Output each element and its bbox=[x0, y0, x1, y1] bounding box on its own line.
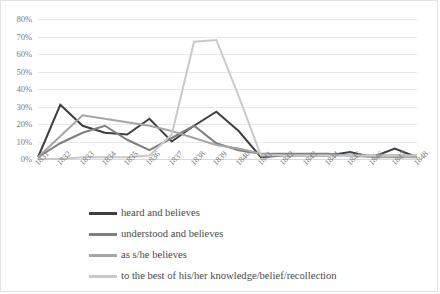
y-axis-tick-20: 20% bbox=[17, 119, 32, 129]
series-lines bbox=[38, 19, 417, 159]
y-axis-tick-60: 60% bbox=[17, 49, 32, 59]
y-axis-tick-70: 70% bbox=[17, 32, 32, 42]
y-axis-tick-50: 50% bbox=[17, 67, 32, 77]
legend-label-1: understood and believes bbox=[121, 229, 223, 240]
plot-area bbox=[38, 19, 417, 159]
chart-figure: 80%70%60%50%40%30%20%10%0% 1831183218331… bbox=[0, 0, 438, 292]
legend-swatch-2 bbox=[89, 254, 117, 257]
legend-swatch-3 bbox=[89, 275, 117, 278]
y-axis-tick-80: 80% bbox=[17, 14, 32, 24]
y-axis-tick-30: 30% bbox=[17, 102, 32, 112]
legend-item-3[interactable]: to the best of his/her knowledge/belief/… bbox=[1, 266, 439, 287]
legend-swatch-0 bbox=[89, 212, 117, 215]
legend-item-0[interactable]: heard and believes bbox=[1, 203, 439, 224]
y-axis-tick-40: 40% bbox=[17, 84, 32, 94]
series-line-3 bbox=[38, 40, 417, 159]
x-axis-tick-labels: 1831183218331834183518361837183818391840… bbox=[38, 161, 417, 195]
y-axis-tick-labels: 80%70%60%50%40%30%20%10%0% bbox=[1, 19, 35, 159]
series-line-0 bbox=[38, 105, 417, 158]
legend-item-2[interactable]: as s/he believes bbox=[1, 245, 439, 266]
y-axis-tick-0: 0% bbox=[21, 154, 32, 164]
legend-label-3: to the best of his/her knowledge/belief/… bbox=[121, 271, 337, 282]
x-axis-tick-1831: 1831 bbox=[33, 149, 51, 167]
legend-label-2: as s/he believes bbox=[121, 250, 187, 261]
y-axis-tick-10: 10% bbox=[17, 137, 32, 147]
chart-legend: heard and believesunderstood and believe… bbox=[1, 203, 439, 287]
gridline-0 bbox=[38, 159, 417, 160]
legend-item-1[interactable]: understood and believes bbox=[1, 224, 439, 245]
legend-label-0: heard and believes bbox=[121, 208, 200, 219]
legend-swatch-1 bbox=[89, 233, 117, 236]
